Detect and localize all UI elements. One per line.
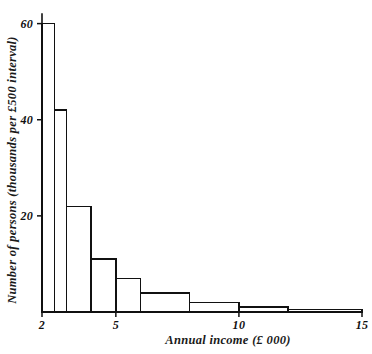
x-axis-tick-label: 15 (356, 318, 369, 332)
histogram-bar (67, 206, 92, 312)
chart-canvas: 204060 251015 Annual income (£ 000) Numb… (0, 0, 372, 354)
x-axis-title: Annual income (£ 000) (164, 333, 290, 347)
y-axis-tick-label: 20 (19, 209, 33, 223)
x-axis-tick-label: 5 (113, 318, 119, 332)
histogram-bar (116, 278, 141, 312)
x-axis-tick-label: 2 (38, 318, 45, 332)
histogram-bar (42, 24, 54, 312)
histogram-bar (54, 110, 66, 312)
histogram-bar (140, 293, 189, 312)
histogram-figure: 204060 251015 Annual income (£ 000) Numb… (0, 0, 372, 354)
histogram-bar (190, 302, 239, 312)
y-axis-title: Number of persons (thousands per £500 in… (5, 36, 19, 305)
x-axis-tick-label: 10 (233, 318, 246, 332)
histogram-bar (91, 259, 116, 312)
y-axis-tick-label: 40 (19, 113, 33, 127)
y-axis-tick-label: 60 (20, 17, 33, 31)
